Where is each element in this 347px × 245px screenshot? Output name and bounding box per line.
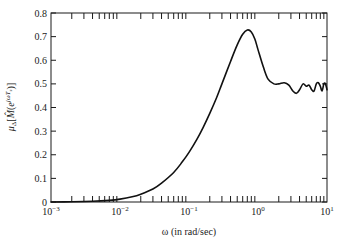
x-axis-ticks: 10−310−210−1100101 bbox=[42, 13, 334, 217]
x-tick-label: 10−3 bbox=[42, 205, 60, 217]
mu-frequency-chart: 00.10.20.30.40.50.60.70.8 10−310−210−110… bbox=[0, 0, 347, 245]
y-tick-label: 0.3 bbox=[35, 126, 48, 137]
y-tick-label: 0.5 bbox=[35, 78, 48, 89]
x-tick-label: 10−2 bbox=[111, 205, 129, 217]
y-axis-title: μΔ[M̂(ejωTs)] bbox=[4, 83, 18, 132]
y-tick-label: 0.8 bbox=[35, 8, 48, 19]
x-tick-label: 10−1 bbox=[180, 205, 198, 217]
svg-text:μΔ[M̂(ejωTs)]: μΔ[M̂(ejωTs)] bbox=[4, 83, 18, 132]
y-tick-label: 0.7 bbox=[35, 31, 48, 42]
y-axis-ticks: 00.10.20.30.40.50.60.70.8 bbox=[35, 8, 328, 208]
x-tick-label: 101 bbox=[320, 205, 334, 217]
mu-curve bbox=[51, 30, 327, 202]
y-tick-label: 0.4 bbox=[35, 102, 48, 113]
plot-frame bbox=[51, 13, 327, 202]
y-tick-label: 0.1 bbox=[35, 173, 48, 184]
y-tick-label: 0.2 bbox=[35, 149, 48, 160]
y-tick-label: 0.6 bbox=[35, 55, 48, 66]
x-axis-title: ω (in rad/sec) bbox=[162, 226, 216, 238]
x-tick-label: 100 bbox=[251, 205, 265, 217]
